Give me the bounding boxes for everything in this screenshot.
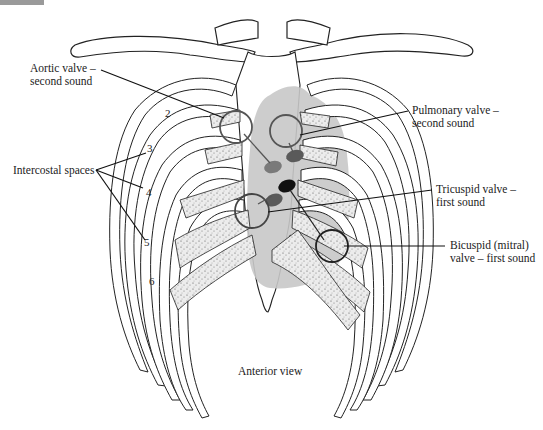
rib-number-2: 2 bbox=[165, 107, 171, 119]
aortic-valve-label-line1: Aortic valve – bbox=[30, 62, 96, 75]
pulmonary-valve-label-line2: second sound bbox=[412, 117, 499, 130]
tricuspid-valve-label-line2: first sound bbox=[436, 196, 516, 209]
aortic-valve-label: Aortic valve – second sound bbox=[30, 62, 96, 88]
clavicles bbox=[71, 20, 473, 62]
mitral-valve-label: Bicuspid (mitral) valve – first sound bbox=[450, 239, 535, 265]
rib-number-5: 5 bbox=[144, 236, 150, 248]
pulmonary-valve-label: Pulmonary valve – second sound bbox=[412, 104, 499, 130]
rib-number-4: 4 bbox=[146, 186, 152, 198]
mitral-valve-label-line1: Bicuspid (mitral) bbox=[450, 239, 535, 252]
rib-number-6: 6 bbox=[149, 275, 155, 287]
tricuspid-valve-label: Tricuspid valve – first sound bbox=[436, 183, 516, 209]
tricuspid-valve-label-line1: Tricuspid valve – bbox=[436, 183, 516, 196]
aortic-leader bbox=[101, 70, 224, 118]
pulmonary-valve-label-line1: Pulmonary valve – bbox=[412, 104, 499, 117]
figure-caption: Anterior view bbox=[238, 365, 302, 378]
intercostal-spaces-label: Intercostal spaces bbox=[13, 164, 94, 177]
mitral-valve-label-line2: valve – first sound bbox=[450, 252, 535, 265]
rib-number-3: 3 bbox=[147, 142, 153, 154]
aortic-valve-label-line2: second sound bbox=[30, 75, 96, 88]
